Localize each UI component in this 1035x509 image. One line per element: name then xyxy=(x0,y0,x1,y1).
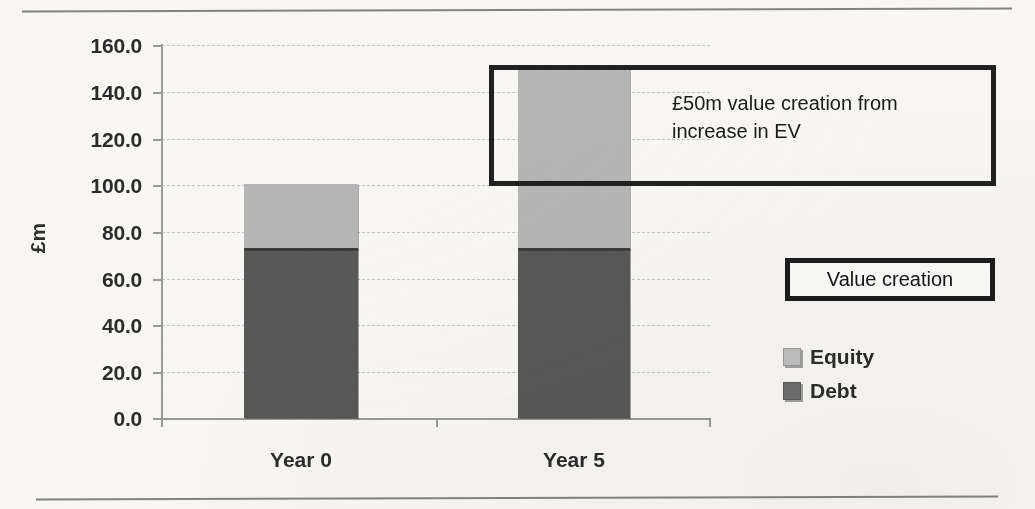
x-axis-start-tick xyxy=(161,418,163,427)
legend-swatch-equity-icon xyxy=(783,348,801,366)
y-axis-label-0: 0.0 xyxy=(46,407,142,431)
bar-year0-equity[interactable] xyxy=(244,184,358,250)
callout-line-1: £50m value creation from xyxy=(672,89,982,117)
legend-item-debt[interactable]: Debt xyxy=(783,374,983,408)
legend-item-equity[interactable]: Equity xyxy=(783,340,983,374)
y-axis-title-text: £m xyxy=(26,223,50,253)
y-axis-label-100: 100.0 xyxy=(46,174,142,198)
bar-year5-debt[interactable] xyxy=(518,248,630,418)
chart-legend: Equity Debt xyxy=(783,340,983,408)
y-axis-label-120: 120.0 xyxy=(46,128,142,152)
value-creation-callout-text: £50m value creation from increase in EV xyxy=(672,89,982,145)
y-axis-label-160: 160.0 xyxy=(46,34,142,58)
x-axis-label-year-5: Year 5 xyxy=(514,448,634,472)
gridline-160 xyxy=(162,45,710,46)
x-axis-category-divider-tick xyxy=(436,418,438,427)
legend-swatch-debt-icon xyxy=(783,382,801,400)
y-axis-label-40: 40.0 xyxy=(46,314,142,338)
value-creation-key-box: Value creation xyxy=(785,258,995,301)
y-axis-label-80: 80.0 xyxy=(46,221,142,245)
y-axis-title: £m xyxy=(16,208,60,268)
y-axis-line xyxy=(161,44,163,421)
x-axis-end-tick xyxy=(709,418,711,427)
y-axis-label-140: 140.0 xyxy=(46,81,142,105)
stacked-bar-chart: 160.0 140.0 120.0 100.0 80.0 60.0 40.0 2… xyxy=(0,0,1035,509)
legend-label-debt: Debt xyxy=(810,379,857,403)
y-axis-label-60: 60.0 xyxy=(46,268,142,292)
value-creation-key-label: Value creation xyxy=(827,268,953,291)
x-axis-label-year-0: Year 0 xyxy=(241,448,361,472)
bar-year0-debt[interactable] xyxy=(244,248,358,418)
y-axis-label-20: 20.0 xyxy=(46,361,142,385)
callout-line-2: increase in EV xyxy=(672,117,982,145)
page-canvas: 160.0 140.0 120.0 100.0 80.0 60.0 40.0 2… xyxy=(0,0,1035,509)
legend-label-equity: Equity xyxy=(810,345,874,369)
